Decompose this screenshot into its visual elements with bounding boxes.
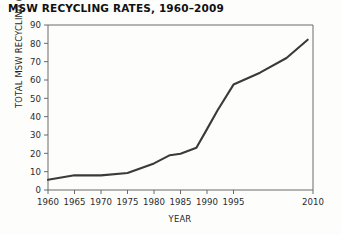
data-series-line: [48, 40, 308, 180]
y-axis-group: 0102030405060708090 TOTAL MSW RECYCLING …: [14, 0, 48, 195]
x-tick-label: 1965: [64, 197, 86, 207]
x-tick-label: 1970: [90, 197, 112, 207]
x-tick-label: 2010: [302, 197, 324, 207]
y-tick-label: 70: [30, 57, 41, 67]
line-chart: 0102030405060708090 TOTAL MSW RECYCLING …: [0, 0, 342, 235]
y-tick-label: 60: [30, 75, 41, 85]
x-tick-label: 1960: [37, 197, 59, 207]
x-axis-ticks: 196019651970197519801985199019952010: [37, 190, 324, 207]
chart-page: MSW RECYCLING RATES, 1960–2009 010203040…: [0, 0, 342, 235]
y-tick-label: 0: [36, 185, 41, 195]
x-axis-title: YEAR: [168, 214, 192, 224]
y-axis-title: TOTAL MSW RECYCLING (million tons/yr): [14, 0, 24, 109]
x-tick-label: 1985: [170, 197, 192, 207]
x-tick-label: 1990: [196, 197, 218, 207]
y-tick-label: 10: [30, 167, 41, 177]
y-tick-label: 40: [30, 112, 41, 122]
y-tick-label: 90: [30, 20, 41, 30]
y-tick-label: 20: [30, 149, 41, 159]
y-tick-label: 80: [30, 39, 41, 49]
x-tick-label: 1975: [117, 197, 139, 207]
x-tick-label: 1980: [143, 197, 165, 207]
y-axis-ticks: 0102030405060708090: [30, 20, 48, 195]
x-tick-label: 1995: [223, 197, 245, 207]
x-axis-group: 196019651970197519801985199019952010 YEA…: [37, 25, 324, 224]
y-tick-label: 50: [30, 94, 41, 104]
y-tick-label: 30: [30, 130, 41, 140]
